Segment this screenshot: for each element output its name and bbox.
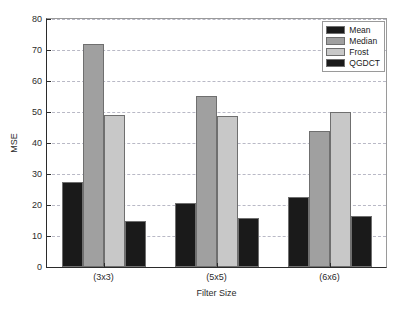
x-axis-tick-mark [217,263,218,267]
bar-qgdct-3x3 [125,221,146,268]
x-axis-title: Filter Size [46,288,387,298]
y-axis-tick-label: 0 [37,262,42,272]
legend-label-mean: Mean [349,26,370,35]
bar-frost-3x3 [104,115,125,267]
legend-label-qgdct: QGDCT [349,59,380,68]
y-axis-tick-mark [47,267,51,268]
y-axis-tick-label: 40 [32,138,42,148]
chart-legend: MeanMedianFrostQGDCT [322,21,385,72]
bar-mean-6x6 [288,197,309,267]
legend-item-median: Median [326,36,380,46]
y-axis-tick-label: 20 [32,200,42,210]
legend-item-qgdct: QGDCT [326,58,380,68]
y-axis-tick-label: 60 [32,76,42,86]
mse-filter-size-bar-chart: MSE 01020304050607080 (3x3)(5x5)(6x6) Fi… [0,0,407,311]
y-axis-tick-label: 70 [32,45,42,55]
legend-item-mean: Mean [326,25,380,35]
bar-mean-5x5 [175,203,196,267]
legend-swatch-frost [326,48,345,56]
legend-item-frost: Frost [326,47,380,57]
bar-mean-3x3 [62,182,83,267]
bar-frost-6x6 [330,112,351,267]
x-axis-tick-label: (5x5) [206,272,227,282]
y-axis-tick-label: 80 [32,14,42,24]
legend-swatch-qgdct [326,59,345,67]
bar-qgdct-5x5 [238,218,259,267]
y-axis-tick-label: 10 [32,231,42,241]
x-axis-tick-mark [330,263,331,267]
bar-median-6x6 [309,131,330,267]
legend-label-median: Median [349,37,377,46]
legend-swatch-median [326,37,345,45]
legend-swatch-mean [326,26,345,34]
bar-frost-5x5 [217,116,238,267]
bar-median-5x5 [196,96,217,267]
x-axis-tick-mark [104,263,105,267]
x-axis-tick-label: (3x3) [93,272,114,282]
y-axis-title: MSE [9,133,19,153]
legend-label-frost: Frost [349,48,368,57]
x-axis-tick-label: (6x6) [319,272,340,282]
bar-median-3x3 [83,44,104,267]
y-axis-tick-label: 50 [32,107,42,117]
bar-group: (5x5) [160,19,273,267]
bar-group: (3x3) [47,19,160,267]
bar-qgdct-6x6 [351,216,372,267]
y-axis-tick-label: 30 [32,169,42,179]
